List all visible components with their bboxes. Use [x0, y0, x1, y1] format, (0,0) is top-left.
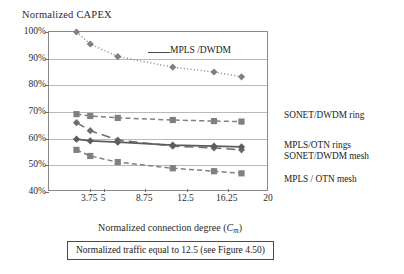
data-point-diamond-marker	[73, 136, 80, 143]
x-axis-tick-label: 12.5	[177, 193, 194, 203]
x-axis-title-paren: )	[239, 222, 242, 233]
y-axis-tick-label: 100%	[24, 26, 46, 36]
series-label-sonet-dwdm-mesh: SONET/DWDM mesh	[284, 151, 369, 163]
x-axis-tick-label: 16.25	[216, 193, 237, 203]
data-point-square-marker	[115, 115, 121, 121]
data-point-diamond-marker	[210, 68, 217, 75]
x-axis-tick-label: 8.75	[136, 193, 153, 203]
data-point-diamond-marker	[87, 137, 94, 144]
figure-caption-box: Normalized traffic equal to 12.5 (see Fi…	[67, 241, 274, 260]
data-point-diamond-marker	[114, 53, 121, 60]
y-axis-tick-label: 60%	[29, 133, 46, 143]
data-point-square-marker	[87, 153, 93, 159]
y-tick-mark	[45, 192, 49, 193]
y-axis-tick-label: 90%	[29, 53, 46, 63]
data-point-square-marker	[211, 118, 217, 124]
x-axis-title: Normalized connection degree (Cm)	[60, 222, 280, 235]
series-sonet-dwdm-ring	[73, 111, 244, 125]
data-point-diamond-marker	[73, 119, 80, 126]
series-label-mpls-otn-mesh: MPLS / OTN mesh	[284, 174, 357, 186]
data-series-group	[49, 32, 269, 192]
data-point-square-marker	[73, 147, 79, 153]
x-axis-tick-label: 20	[263, 193, 273, 203]
annotation-leader-line	[148, 52, 170, 53]
data-point-square-marker	[170, 165, 176, 171]
x-axis-title-text: Normalized connection degree (	[98, 222, 227, 233]
data-point-square-marker	[87, 113, 93, 119]
data-point-square-marker	[73, 111, 79, 117]
figure-canvas: Normalized CAPEX 40%50%60%70%80%90%100% …	[0, 0, 404, 274]
y-axis-tick-label: 40%	[29, 186, 46, 196]
y-axis-tick-label: 70%	[29, 106, 46, 116]
x-axis-tick-label: 5	[101, 193, 106, 203]
series-label-sonet-dwdm-ring: SONET/DWDM ring	[284, 110, 364, 122]
data-point-diamond-marker	[169, 64, 176, 71]
series-label-mpls-otn-rings: MPLS/OTN rings	[284, 140, 351, 152]
series-mpls-otn-mesh	[73, 147, 244, 177]
series-annotation-mpls-dwdm: MPLS /DWDM	[170, 45, 231, 55]
plot-area: MPLS /DWDM	[48, 31, 268, 191]
data-point-square-marker	[238, 119, 244, 125]
data-point-diamond-marker	[87, 127, 94, 134]
data-point-diamond-marker	[238, 73, 245, 80]
data-point-square-marker	[115, 159, 121, 165]
series-sonet-dwdm-mesh	[73, 119, 245, 153]
y-axis-tick-label: 50%	[29, 159, 46, 169]
data-point-square-marker	[238, 170, 244, 176]
data-point-square-marker	[170, 117, 176, 123]
y-axis-tick-labels: 40%50%60%70%80%90%100%	[0, 0, 46, 274]
data-point-diamond-marker	[87, 40, 94, 47]
data-point-square-marker	[211, 168, 217, 174]
x-axis-tick-label: 3.75	[81, 193, 98, 203]
data-point-diamond-marker	[169, 141, 176, 148]
y-axis-tick-label: 80%	[29, 79, 46, 89]
